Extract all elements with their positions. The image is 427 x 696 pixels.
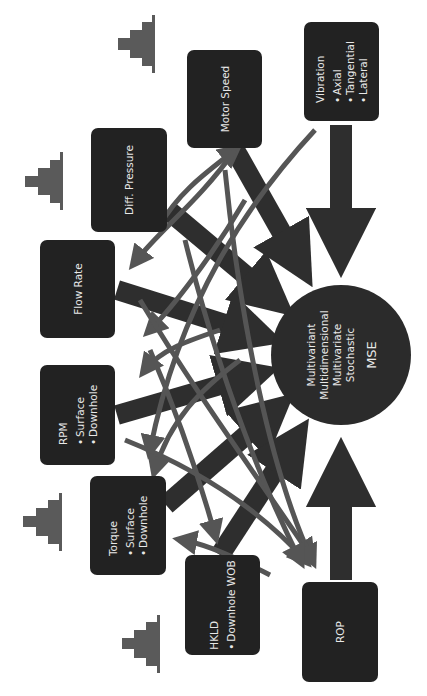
bar-pyramid-icon — [23, 493, 62, 551]
mse-line: Multivariant — [305, 310, 318, 399]
node-diff-pressure-title: Diff. Pressure — [123, 145, 136, 215]
node-flow-rate-title: Flow Rate — [71, 263, 84, 314]
mse-line: Multidimensional — [318, 310, 331, 399]
node-rpm-item: Downhole — [86, 385, 99, 445]
node-torque-item: Downhole — [137, 495, 150, 555]
node-rop-title: ROP — [334, 621, 347, 643]
node-torque-title: Torque — [107, 495, 120, 555]
node-vibration-item: Axial — [331, 41, 344, 103]
node-vibration-item: Tangential — [344, 41, 357, 103]
bar-pyramid-icon — [25, 152, 63, 210]
node-hkld-item: Downhole WOB — [225, 560, 238, 649]
arrow-motor-speed-to-mse — [235, 150, 300, 265]
node-flow-rate: Flow Rate — [40, 240, 115, 338]
node-vibration-title: Vibration — [314, 41, 327, 103]
node-rop: ROP — [302, 582, 378, 682]
node-rpm: RPM Surface Downhole — [40, 365, 115, 465]
node-hkld: HKLD Downhole WOB — [185, 555, 260, 655]
bar-pyramid-icon — [122, 615, 160, 673]
node-vibration: Vibration Axial Tangential Lateral — [304, 22, 379, 121]
mse-center-node: Multivariant Multidimensional Multivaria… — [271, 285, 411, 425]
diagram-canvas: Vibration Axial Tangential Lateral Motor… — [0, 0, 427, 696]
bar-pyramid-icon — [118, 15, 155, 73]
node-rpm-item: Surface — [73, 385, 86, 445]
node-hkld-title: HKLD — [208, 560, 221, 649]
node-torque-item: Surface — [124, 495, 137, 555]
mse-line: Stochastic — [344, 310, 357, 399]
node-torque: Torque Surface Downhole — [90, 476, 166, 575]
node-motor-speed-title: Motor Speed — [218, 66, 231, 133]
node-rpm-title: RPM — [56, 385, 69, 445]
node-vibration-item: Lateral — [357, 41, 370, 103]
node-diff-pressure: Diff. Pressure — [91, 128, 167, 232]
mse-title: MSE — [365, 310, 378, 399]
mse-line: Multivariate — [331, 310, 344, 399]
node-motor-speed: Motor Speed — [187, 50, 262, 148]
